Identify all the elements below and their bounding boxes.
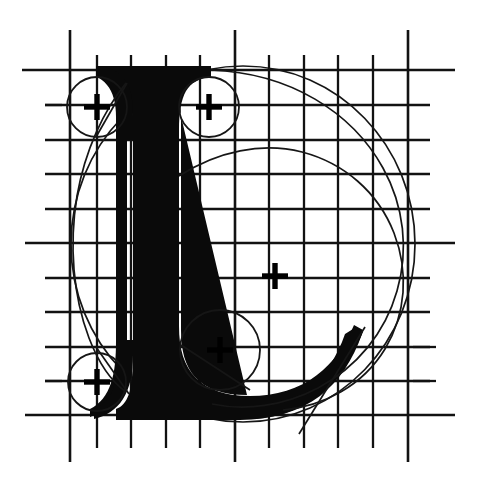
letterform-construction-figure [0, 0, 479, 479]
diagram-canvas [0, 0, 479, 479]
